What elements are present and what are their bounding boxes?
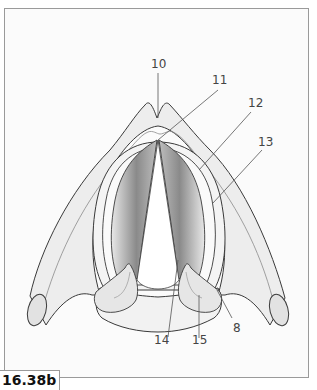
callout-10: 10 bbox=[151, 57, 166, 71]
figure-label: 16.38b bbox=[0, 370, 60, 390]
callout-8: 8 bbox=[233, 321, 241, 335]
callout-14: 14 bbox=[154, 333, 169, 347]
callout-11: 11 bbox=[212, 73, 227, 87]
callout-15: 15 bbox=[192, 333, 207, 347]
callout-12: 12 bbox=[248, 96, 263, 110]
callout-13: 13 bbox=[258, 135, 273, 149]
